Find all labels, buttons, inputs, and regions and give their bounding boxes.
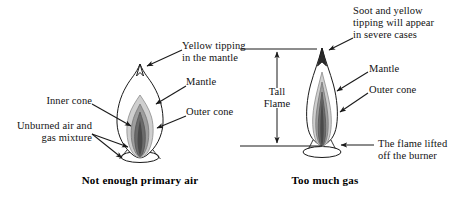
leader-soot-tipping bbox=[329, 38, 353, 50]
leader-mantle-left bbox=[156, 86, 186, 104]
label-yellow-tipping-line2: in the mantle bbox=[182, 52, 246, 64]
leader-mantle-right bbox=[337, 72, 368, 91]
label-flame-lifted: The flame lifted off the burner bbox=[378, 138, 447, 162]
caption-right-panel: Too much gas bbox=[240, 174, 410, 186]
label-unburned-line2: gas mixture bbox=[0, 132, 92, 144]
label-inner-cone: Inner cone bbox=[0, 95, 92, 107]
label-lifted-line1: The flame lifted bbox=[378, 138, 447, 150]
label-tall-flame-line1: Tall bbox=[250, 86, 304, 98]
label-unburned-mixture: Unburned air and gas mixture bbox=[0, 120, 92, 144]
label-yellow-tipping-line1: Yellow tipping bbox=[182, 40, 246, 52]
label-mantle-right: Mantle bbox=[369, 63, 399, 75]
label-lifted-line2: off the burner bbox=[378, 150, 447, 162]
leader-unburned-2 bbox=[92, 134, 122, 158]
caption-left-panel: Not enough primary air bbox=[36, 174, 244, 186]
label-soot-line3: in severe cases bbox=[353, 29, 434, 41]
label-outer-cone-right: Outer cone bbox=[369, 84, 416, 96]
label-outer-cone-left: Outer cone bbox=[186, 106, 233, 118]
label-soot-yellow-tipping: Soot and yellow tipping will appear in s… bbox=[353, 5, 434, 42]
flame-diagram-figure: Yellow tipping in the mantle Mantle Oute… bbox=[0, 0, 456, 207]
right-flame-drawing bbox=[303, 48, 341, 158]
label-soot-line1: Soot and yellow bbox=[353, 5, 434, 17]
leader-outer-cone-right bbox=[340, 93, 368, 112]
label-tall-flame-line2: Flame bbox=[250, 98, 304, 110]
label-tall-flame: Tall Flame bbox=[250, 86, 304, 110]
label-yellow-tipping: Yellow tipping in the mantle bbox=[182, 40, 246, 64]
leader-yellow-tipping bbox=[147, 50, 182, 66]
left-flame-drawing bbox=[117, 64, 163, 163]
label-mantle-left: Mantle bbox=[186, 76, 216, 88]
label-unburned-line1: Unburned air and bbox=[0, 120, 92, 132]
label-soot-line2: tipping will appear bbox=[353, 17, 434, 29]
